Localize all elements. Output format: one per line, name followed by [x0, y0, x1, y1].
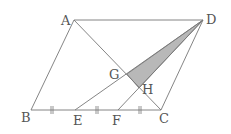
label-e: E	[73, 114, 83, 127]
label-g: G	[109, 68, 119, 81]
label-b: B	[21, 111, 31, 124]
label-a: A	[61, 14, 70, 27]
segment-df	[118, 20, 203, 110]
segment-ab	[31, 20, 74, 110]
segment-de	[75, 20, 203, 110]
label-d: D	[206, 13, 216, 26]
shaded-triangle-dgh	[127, 20, 203, 88]
segment-cd	[161, 20, 203, 110]
label-f: F	[112, 114, 121, 127]
label-h: H	[142, 83, 153, 96]
label-c: C	[159, 112, 169, 125]
